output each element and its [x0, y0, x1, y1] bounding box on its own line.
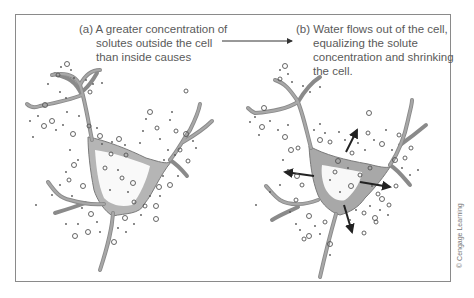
cell-b	[248, 77, 426, 277]
cell-a	[27, 70, 212, 270]
solute-dots	[29, 66, 419, 256]
illustration	[0, 0, 474, 298]
